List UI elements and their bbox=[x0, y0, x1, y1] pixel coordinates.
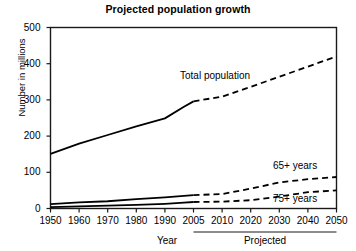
x-tick-label: 2005 bbox=[179, 216, 209, 226]
annotation-65-plus-years: 65+ years bbox=[273, 161, 317, 171]
annotation-75-plus-years: 75+ years bbox=[273, 194, 317, 204]
y-tick-label: 100 bbox=[11, 167, 41, 177]
x-tick-label: 2030 bbox=[264, 216, 294, 226]
y-tick-label: 400 bbox=[11, 59, 41, 69]
x-tick-label: 1980 bbox=[121, 216, 151, 226]
x-tick-label: 1990 bbox=[150, 216, 180, 226]
y-tick-label: 300 bbox=[11, 95, 41, 105]
x-tick-label: 2040 bbox=[293, 216, 323, 226]
x-tick-label: 2050 bbox=[322, 216, 352, 226]
x-tick-label: 2010 bbox=[207, 216, 237, 226]
chart-figure: Projected population growth Number in mi… bbox=[0, 0, 356, 251]
plot-area bbox=[0, 0, 356, 251]
projected-caption: Projected bbox=[234, 236, 296, 246]
series-line-total-population-observed bbox=[51, 101, 194, 153]
y-tick-label: 0 bbox=[11, 204, 41, 214]
x-axis-label: Year bbox=[145, 236, 189, 246]
y-tick-label: 500 bbox=[11, 23, 41, 33]
x-tick-label: 1970 bbox=[93, 216, 123, 226]
y-tick-label: 200 bbox=[11, 131, 41, 141]
annotation-total-population: Total population bbox=[180, 71, 250, 81]
x-tick-label: 2020 bbox=[236, 216, 266, 226]
x-tick-label: 1950 bbox=[36, 216, 66, 226]
x-tick-label: 1960 bbox=[64, 216, 94, 226]
